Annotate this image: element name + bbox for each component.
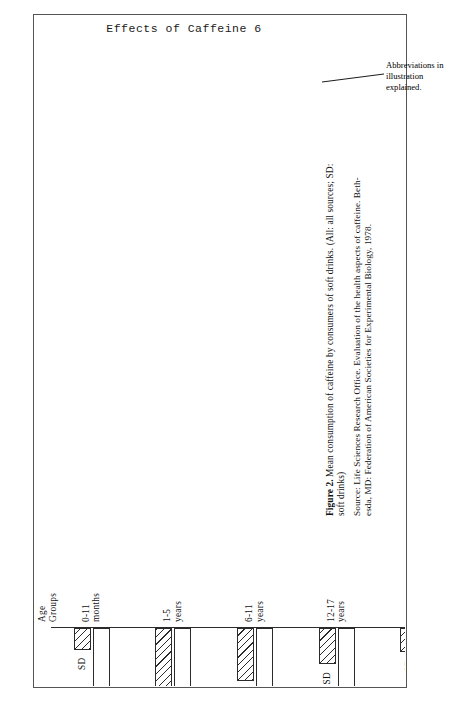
category-label-line: 0-11 — [81, 562, 92, 622]
annotation-line-2: illustration — [386, 71, 472, 82]
category-label: 12-17years — [326, 562, 347, 622]
category-label-line: years — [336, 562, 347, 622]
bar-label-sd: SD — [322, 672, 332, 684]
figure-chart-area: SDAll0-11monthsSDAll1-5yearsSDAll6-11yea… — [33, 14, 405, 686]
category-label-line: 12-17 — [326, 562, 337, 622]
annotation-leader-line — [322, 73, 384, 83]
figure-caption-line-2: soft drinks) — [336, 472, 346, 516]
bar-label-sd: SD — [77, 658, 87, 670]
figure-caption-text-1: Mean consumption of caffeine by consumer… — [325, 164, 335, 477]
bar-all[interactable] — [338, 628, 355, 686]
category-label: 0-11months — [81, 562, 102, 622]
bar-sd[interactable] — [155, 628, 172, 686]
bar-chart: SDAll0-11monthsSDAll1-5yearsSDAll6-11yea… — [33, 14, 405, 686]
category-label-line: years — [255, 562, 266, 622]
bar-sd[interactable] — [400, 628, 405, 652]
category-axis-title-line: Groups — [48, 562, 59, 622]
annotation-line-3: explained. — [386, 82, 472, 93]
source-note-line-1: Source: Life Sciences Research Office. E… — [352, 177, 362, 516]
annotation-line-1: Abbreviations in — [386, 60, 472, 71]
category-label-line: months — [91, 562, 102, 622]
bar-sd[interactable] — [74, 628, 91, 650]
bar-all[interactable] — [174, 628, 191, 686]
bar-all[interactable] — [93, 628, 110, 686]
margin-annotation: Abbreviations in illustration explained. — [386, 60, 472, 93]
figure-caption-line-1: Figure 2. Mean consumption of caffeine b… — [325, 164, 335, 516]
category-label-line: 6-11 — [244, 562, 255, 622]
category-axis-title-line: Age — [37, 562, 48, 622]
category-label: 6-11years — [244, 562, 265, 622]
bar-all[interactable] — [256, 628, 273, 686]
category-label: 1-5years — [162, 562, 183, 622]
bar-sd[interactable] — [237, 628, 254, 681]
bar-label-sd: SD — [404, 660, 405, 672]
figure-caption-label: Figure 2. — [325, 479, 335, 516]
bar-sd[interactable] — [319, 628, 336, 664]
source-note-line-2: esda, MD: Federation of American Societi… — [363, 224, 373, 516]
category-label-line: 1-5 — [162, 562, 173, 622]
plot-area: SDAll0-11monthsSDAll1-5yearsSDAll6-11yea… — [33, 14, 405, 686]
category-axis-title: AgeGroups — [37, 562, 58, 622]
category-label-line: years — [173, 562, 184, 622]
